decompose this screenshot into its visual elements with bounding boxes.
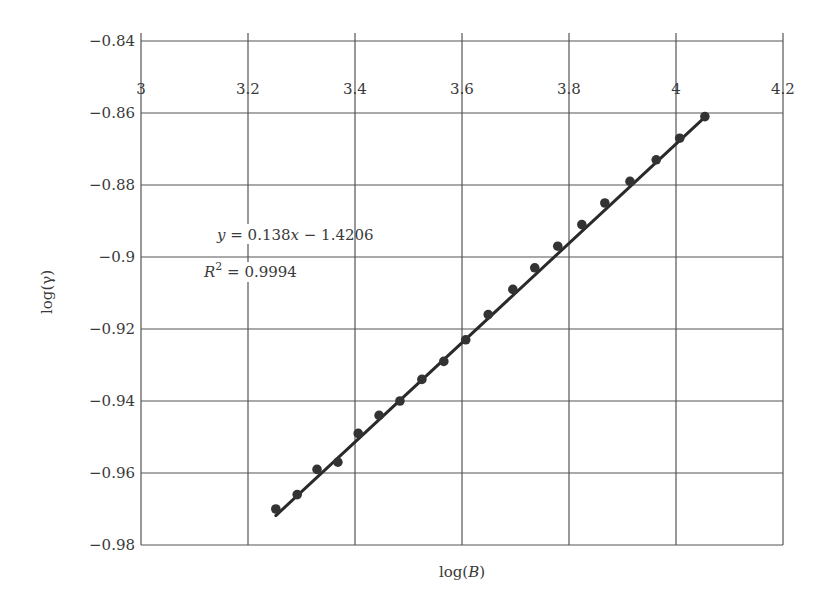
x-tick-label: 3.2 bbox=[236, 80, 260, 98]
data-point bbox=[577, 220, 587, 230]
data-point bbox=[700, 112, 710, 122]
data-point bbox=[600, 198, 610, 208]
data-point bbox=[553, 241, 563, 251]
grid-lines bbox=[141, 33, 783, 545]
x-tick-label: 3 bbox=[136, 80, 146, 98]
y-tick-label: −0.84 bbox=[89, 32, 135, 50]
data-point bbox=[651, 155, 661, 165]
y-tick-label: −0.9 bbox=[99, 248, 135, 266]
y-tick-label: −0.96 bbox=[89, 464, 135, 482]
data-point bbox=[271, 504, 281, 514]
data-point bbox=[530, 263, 540, 273]
x-tick-label: 3.6 bbox=[450, 80, 474, 98]
y-tick-label: −0.92 bbox=[89, 320, 135, 338]
y-tick-label: −0.98 bbox=[89, 536, 135, 554]
data-point bbox=[312, 465, 322, 475]
x-tick-label: 4 bbox=[671, 80, 681, 98]
data-point bbox=[292, 490, 302, 500]
y-tick-label: −0.88 bbox=[89, 176, 135, 194]
data-point bbox=[353, 429, 363, 439]
x-tick-label: 3.4 bbox=[343, 80, 367, 98]
equation-annotation: y = 0.138x − 1.4206 bbox=[216, 226, 374, 244]
data-point bbox=[417, 375, 427, 385]
x-axis-ticks: 33.23.43.63.844.2 bbox=[136, 80, 795, 98]
data-point bbox=[675, 133, 685, 143]
data-point bbox=[439, 357, 449, 367]
data-point bbox=[461, 335, 471, 345]
data-point bbox=[508, 285, 518, 295]
y-tick-label: −0.94 bbox=[89, 392, 135, 410]
y-tick-label: −0.86 bbox=[89, 104, 135, 122]
x-tick-label: 4.2 bbox=[771, 80, 795, 98]
data-point bbox=[333, 457, 343, 467]
data-point bbox=[625, 177, 635, 187]
x-axis-label: log(B) bbox=[439, 563, 485, 581]
chart: −0.84−0.86−0.88−0.9−0.92−0.94−0.96−0.98 … bbox=[0, 0, 828, 605]
x-tick-label: 3.8 bbox=[557, 80, 581, 98]
data-point bbox=[395, 396, 405, 406]
data-point bbox=[374, 411, 384, 421]
y-axis-ticks: −0.84−0.86−0.88−0.9−0.92−0.94−0.96−0.98 bbox=[89, 32, 135, 554]
data-point bbox=[483, 310, 493, 320]
y-axis-label: log(γ) bbox=[38, 270, 56, 314]
